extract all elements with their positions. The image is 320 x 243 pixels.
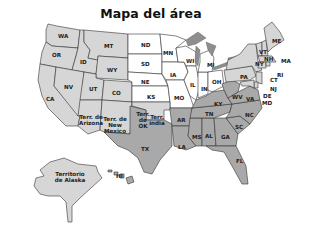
label-pa: PA [240,74,248,80]
label-nj: NJ [270,86,277,92]
label-mt: MT [104,43,113,49]
label-ca: CA [46,96,54,102]
label-nm: Terr. de New Mexico [102,116,128,134]
label-ny: NY [255,61,264,67]
region-me[interactable] [264,22,284,52]
label-hi: HI [116,173,123,179]
label-wv: WV [232,94,243,100]
label-nh: NH [264,56,273,62]
label-va: VA [246,96,254,102]
label-mi: MI [207,62,215,68]
label-nd: ND [141,42,150,48]
region-al[interactable] [202,118,216,146]
label-co: CO [112,90,121,96]
label-in: IN [201,86,208,92]
label-de: DE [263,93,271,99]
label-id: ID [80,59,87,65]
label-indian-territory: Terr. india [149,114,165,126]
label-ut: UT [89,86,97,92]
label-ia: IA [170,72,176,78]
region-ak[interactable] [34,158,102,222]
label-wy: WY [107,67,117,73]
region-md[interactable] [240,80,254,88]
label-tn: TN [205,111,214,117]
region-ri[interactable] [266,62,270,66]
label-nv: NV [64,84,73,90]
label-mo: MO [174,95,184,101]
label-mn: MN [163,50,173,56]
label-ms: MS [192,134,202,140]
label-ks: KS [147,94,155,100]
label-ma: MA [281,58,291,64]
label-me: ME [272,38,281,44]
label-nc: NC [245,112,254,118]
region-hi-1[interactable] [108,170,112,172]
label-fl: FL [236,158,243,164]
label-il: IL [190,82,196,88]
label-tx: TX [141,146,149,152]
label-wi: WI [186,58,194,64]
label-md: MD [262,100,272,106]
label-ky: KY [214,101,222,107]
region-fl[interactable] [206,146,248,184]
label-ar: AR [177,117,186,123]
region-in[interactable] [198,72,208,98]
label-or: OR [52,52,61,58]
label-oh: OH [212,79,221,85]
label-vt: VT [259,49,267,55]
label-ga: GA [221,134,230,140]
label-sc: SC [235,124,243,130]
region-hi-4[interactable] [126,176,134,184]
label-sd: SD [141,61,150,67]
label-ak: Territorio de Alaska [54,171,86,183]
label-ne: NE [141,79,150,85]
label-wa: WA [58,33,68,39]
label-la: LA [178,144,186,150]
label-al: AL [205,133,213,139]
lake-superior [186,32,206,46]
region-de[interactable] [254,82,258,88]
lake-michigan [195,46,200,66]
label-ct: CT [270,77,278,83]
